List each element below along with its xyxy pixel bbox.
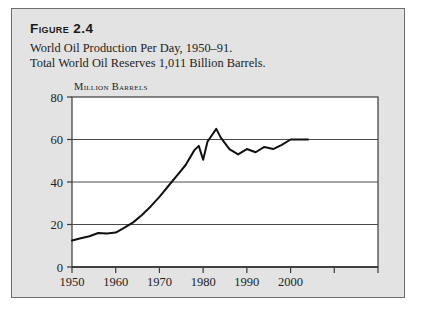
figure-title: Figure 2.4 [30,21,93,36]
y-tick-label-20: 20 [51,218,64,232]
x-tick-label-1980: 1980 [191,275,216,289]
oil-production-line-chart: 020406080195019601970198019902000 [30,81,388,291]
figure-title-text: Figure 2.4 [30,21,93,36]
x-tick-label-1970: 1970 [147,275,172,289]
y-tick-label-40: 40 [51,176,64,190]
chart-area: Million Barrels 020406080195019601970198… [30,81,388,291]
x-tick-label-2000: 2000 [278,275,303,289]
figure-subtitle: World Oil Production Per Day, 1950–91. T… [30,41,266,71]
y-tick-label-80: 80 [51,91,64,105]
y-tick-label-60: 60 [51,133,64,147]
x-tick-label-1990: 1990 [234,275,259,289]
x-tick-label-1950: 1950 [60,275,85,289]
figure-card: Figure 2.4 World Oil Production Per Day,… [11,8,405,298]
y-tick-label-0: 0 [57,261,63,275]
x-tick-label-1960: 1960 [103,275,128,289]
